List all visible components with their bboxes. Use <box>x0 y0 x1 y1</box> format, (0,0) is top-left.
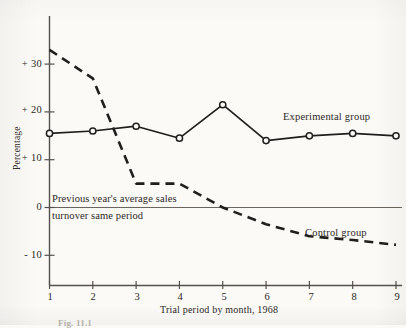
x-tick-label: 9 <box>387 292 406 303</box>
y-tick-label: + 30 <box>8 59 42 70</box>
x-tick-label: 7 <box>301 292 321 303</box>
y-tick-label: 0 <box>8 202 42 213</box>
x-tick-label: 4 <box>170 292 190 303</box>
data-point-marker <box>393 133 399 139</box>
y-axis-title: Percentage <box>12 126 22 170</box>
zero-line-note-first: Previous year's average sales <box>52 194 177 205</box>
figure-caption: Fig. 11.1 <box>58 318 92 328</box>
y-tick-label: + 20 <box>8 105 42 116</box>
x-tick-label: 5 <box>214 292 234 303</box>
y-tick-label: - 10 <box>8 250 42 261</box>
experimental-group-label: Experimental group <box>283 112 370 123</box>
data-point-marker <box>220 102 226 108</box>
data-point-marker <box>46 130 52 136</box>
data-point-marker <box>90 128 96 134</box>
zero-line-note-second: turnover same period <box>52 211 143 222</box>
x-tick-label: 6 <box>257 292 277 303</box>
x-tick-label: 3 <box>127 292 147 303</box>
x-tick-label: 2 <box>83 292 103 303</box>
experimental-group-markers <box>46 102 399 144</box>
x-axis-title: Trial period by month, 1968 <box>160 305 278 315</box>
data-point-marker <box>133 123 139 129</box>
data-point-marker <box>306 133 312 139</box>
x-tick-label: 1 <box>40 292 60 303</box>
control-group-label: Control group <box>305 228 367 239</box>
data-point-marker <box>263 137 269 143</box>
data-point-marker <box>350 130 356 136</box>
x-tick-label: 8 <box>344 292 364 303</box>
data-point-marker <box>176 135 182 141</box>
